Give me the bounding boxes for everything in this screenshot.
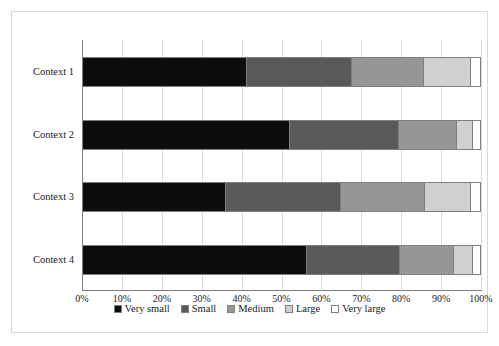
legend-swatch-icon xyxy=(331,305,339,313)
bar-segment xyxy=(82,182,226,212)
bar-segment xyxy=(352,57,423,87)
category-label: Context 1 xyxy=(12,57,74,87)
bar-segment xyxy=(471,57,481,87)
y-axis-line xyxy=(82,40,83,291)
bar-segment xyxy=(290,120,399,150)
bar-segment xyxy=(399,120,457,150)
gridline-100 xyxy=(481,40,482,290)
legend-item[interactable]: Small xyxy=(181,303,217,314)
bar-segment xyxy=(400,245,454,275)
legend-swatch-icon xyxy=(227,305,235,313)
legend-item[interactable]: Very large xyxy=(331,303,385,314)
legend-label: Large xyxy=(296,303,320,314)
bar-segment xyxy=(82,245,307,275)
bar-segment xyxy=(82,120,290,150)
bar-row xyxy=(82,245,481,275)
category-label: Context 3 xyxy=(12,182,74,212)
legend-swatch-icon xyxy=(285,305,293,313)
chart-legend: Very smallSmallMediumLargeVery large xyxy=(11,303,488,314)
chart-page: Context 1Context 2Context 3Context 4 0%1… xyxy=(0,0,499,346)
category-axis-labels: Context 1Context 2Context 3Context 4 xyxy=(12,40,80,290)
category-label: Context 2 xyxy=(12,120,74,150)
legend-item[interactable]: Large xyxy=(285,303,320,314)
bar-segment xyxy=(473,245,481,275)
legend-label: Very large xyxy=(342,303,385,314)
bar-row xyxy=(82,57,481,87)
bar-segment xyxy=(457,120,473,150)
chart-frame: Context 1Context 2Context 3Context 4 0%1… xyxy=(11,11,488,333)
legend-swatch-icon xyxy=(114,305,122,313)
bar-segment xyxy=(424,57,471,87)
legend-item[interactable]: Very small xyxy=(114,303,170,314)
bar-row xyxy=(82,182,481,212)
bar-segment xyxy=(341,182,425,212)
bar-segment xyxy=(471,182,481,212)
legend-label: Small xyxy=(192,303,217,314)
legend-item[interactable]: Medium xyxy=(227,303,274,314)
plot-area xyxy=(82,40,481,290)
legend-label: Medium xyxy=(238,303,274,314)
bar-segment xyxy=(307,245,400,275)
bar-segment xyxy=(473,120,481,150)
category-label: Context 4 xyxy=(12,245,74,275)
bar-segment xyxy=(226,182,341,212)
bar-segment xyxy=(247,57,352,87)
bar-segment xyxy=(425,182,472,212)
legend-label: Very small xyxy=(125,303,170,314)
legend-swatch-icon xyxy=(181,305,189,313)
bar-row xyxy=(82,120,481,150)
bar-segment xyxy=(454,245,473,275)
bar-segment xyxy=(82,57,247,87)
x-axis-line xyxy=(82,290,482,291)
